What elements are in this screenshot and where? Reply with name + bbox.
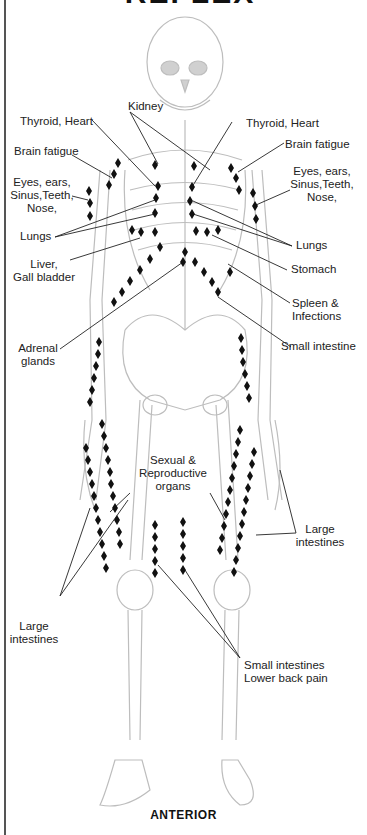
label-eyes-left: Eyes, ears, Sinus,Teeth, Nose, [6,176,78,215]
label-small-intestine: Small intestine [281,340,356,353]
label-thyroid-heart-left: Thyroid, Heart [20,115,93,128]
label-lungs-right: Lungs [296,239,327,252]
label-kidney: Kidney [128,100,163,113]
label-stomach: Stomach [291,263,336,276]
label-thyroid-heart-right: Thyroid, Heart [246,117,319,130]
label-adrenal-glands: Adrenal glands [10,342,66,368]
reflex-markers [83,158,259,578]
caption-anterior: ANTERIOR [0,808,367,822]
skeleton-bones [80,17,282,806]
label-brain-fatigue-left: Brain fatigue [14,145,79,158]
label-sexual-reproductive: Sexual & Reproductive organs [130,454,216,493]
label-liver-gallbladder: Liver, Gall bladder [6,258,82,284]
label-large-intestines-left: Large intestines [6,620,62,646]
label-small-intestines-lower-back: Small intestines Lower back pain [244,659,328,685]
label-large-intestines-right: Large intestines [290,523,350,549]
label-lungs-left: Lungs [20,230,51,243]
label-brain-fatigue-right: Brain fatigue [285,138,350,151]
label-eyes-right: Eyes, ears, Sinus,Teeth, Nose, [286,165,358,204]
label-spleen-infections: Spleen & Infections [292,297,341,323]
